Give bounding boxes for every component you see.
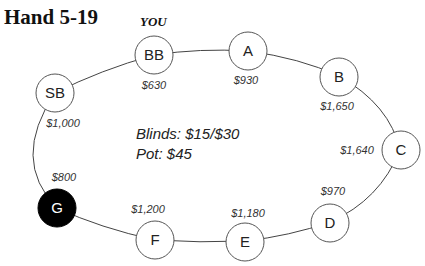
seat-f: F $1,200 bbox=[130, 203, 174, 259]
seat-stack: $1,200 bbox=[130, 203, 166, 215]
seat-e: E $1,180 bbox=[226, 207, 266, 261]
seat-label: E bbox=[240, 233, 250, 250]
seat-stack: $1,000 bbox=[45, 117, 81, 129]
seat-stack: $800 bbox=[51, 171, 77, 183]
seat-stack: $1,650 bbox=[319, 100, 355, 112]
seat-b: B $1,650 bbox=[319, 58, 358, 112]
seat-label: C bbox=[396, 141, 407, 158]
seat-stack: $930 bbox=[233, 74, 259, 86]
hero-label: YOU bbox=[140, 14, 167, 29]
seat-a: A $930 bbox=[229, 32, 267, 86]
seat-stack: $630 bbox=[141, 79, 167, 91]
seat-bb: BB $630 bbox=[135, 36, 173, 91]
seat-d: D $970 bbox=[311, 185, 349, 242]
seat-label: BB bbox=[144, 46, 164, 63]
seat-sb: SB $1,000 bbox=[36, 74, 81, 129]
pot-text: Pot: $45 bbox=[136, 145, 193, 162]
hand-title: Hand 5-19 bbox=[4, 5, 98, 29]
seat-label: G bbox=[51, 199, 63, 216]
seat-stack: $1,180 bbox=[230, 207, 266, 219]
seat-label: D bbox=[325, 214, 336, 231]
seat-label: A bbox=[243, 42, 253, 59]
seat-label: F bbox=[150, 231, 159, 248]
poker-table-diagram: Hand 5-19 YOU Blinds: $15/$30 Pot: $45 B… bbox=[0, 0, 425, 266]
seat-g: G $800 bbox=[38, 171, 77, 227]
seat-label: B bbox=[334, 68, 344, 85]
seat-c: C $1,640 bbox=[339, 131, 420, 169]
blinds-text: Blinds: $15/$30 bbox=[136, 125, 240, 142]
seat-label: SB bbox=[45, 84, 65, 101]
seat-stack: $1,640 bbox=[339, 144, 375, 156]
seat-stack: $970 bbox=[320, 185, 346, 197]
